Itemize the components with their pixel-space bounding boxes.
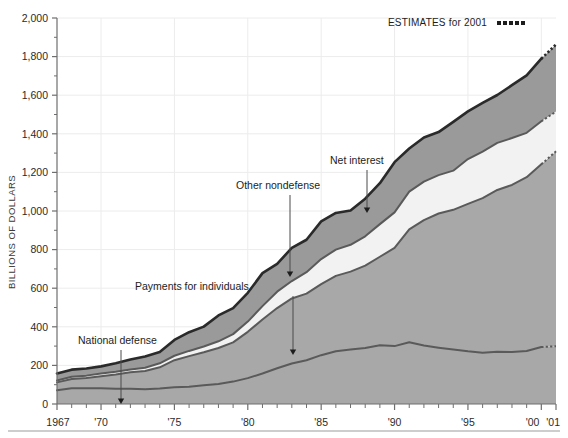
chart-canvas: 2,0001,8001,6001,4001,2001,0008006004002… [0,0,568,438]
x-tick-label: '75 [168,416,182,428]
y-tick-label: 2,000 [22,12,48,24]
y-tick-label: 1,000 [22,205,48,217]
x-tick-label: '95 [461,416,475,428]
x-tick-label: '70 [94,416,108,428]
annotation-label: Other nondefense [236,179,320,191]
y-tick-label: 200 [30,359,48,371]
y-tick-label: 1,800 [22,50,48,62]
y-tick-label: 1,400 [22,128,48,140]
annotation-label: Net interest [330,154,384,166]
y-tick-label: 600 [30,282,48,294]
y-tick-label: 1,200 [22,166,48,178]
y-axis-title: BILLIONS OF DOLLARS [6,175,17,289]
x-tick-label: '80 [241,416,255,428]
x-tick-label: '90 [388,416,402,428]
federal-outlays-stacked-area-chart: 2,0001,8001,6001,4001,2001,0008006004002… [0,0,568,438]
annotation-label: National defense [78,334,157,346]
x-tick-label: '01 [546,416,560,428]
estimates-legend-label: ESTIMATES for 2001 [388,17,487,28]
annotation-label: Payments for individuals [135,280,249,292]
x-tick-label: 1967 [46,416,70,428]
x-tick-label: '85 [314,416,328,428]
y-tick-label: 1,600 [22,89,48,101]
y-tick-label: 800 [30,243,48,255]
y-tick-label: 400 [30,321,48,333]
x-tick-label: '00 [526,416,540,428]
y-tick-label: 0 [42,398,48,410]
